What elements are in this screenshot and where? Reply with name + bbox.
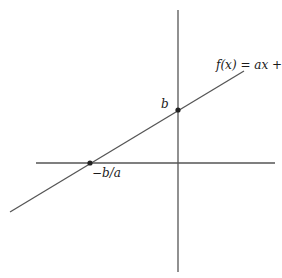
linear-function-graph bbox=[0, 0, 282, 278]
function-line bbox=[10, 71, 244, 212]
x-intercept-label: −b/a bbox=[92, 166, 121, 180]
y-intercept-point bbox=[175, 107, 180, 112]
y-intercept-label: b bbox=[161, 97, 169, 111]
x-intercept-point bbox=[87, 160, 92, 165]
function-label: f(x) = ax + b bbox=[216, 58, 282, 72]
